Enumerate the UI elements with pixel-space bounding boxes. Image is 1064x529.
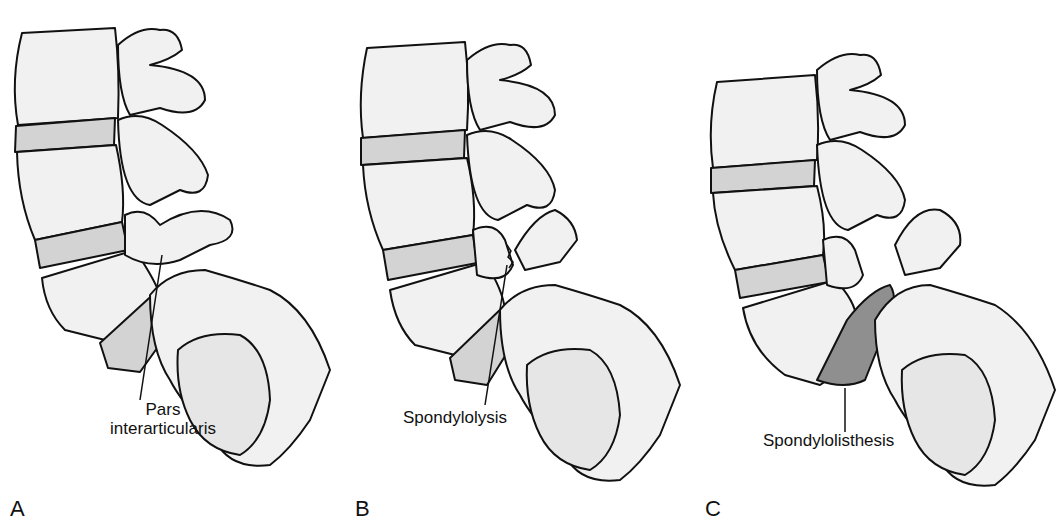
- panel-letter-b: B: [355, 496, 370, 522]
- label-line-2: interarticularis: [103, 419, 223, 438]
- pars-interarticularis-label: Pars interarticularis: [103, 400, 223, 438]
- panel-letter-c: C: [705, 496, 721, 522]
- panel-letter-a: A: [10, 496, 25, 522]
- spondylolysis-illustration: [355, 0, 710, 529]
- normal-spine-illustration: [0, 0, 355, 529]
- panel-c: Spondylolisthesis C: [705, 0, 1060, 529]
- spondylolysis-label: Spondylolysis: [403, 408, 507, 427]
- panel-b: Spondylolysis B: [355, 0, 710, 529]
- label-line-1: Pars: [103, 400, 223, 419]
- spondylolisthesis-label: Spondylolisthesis: [763, 431, 894, 450]
- panel-a: Pars interarticularis A: [0, 0, 355, 529]
